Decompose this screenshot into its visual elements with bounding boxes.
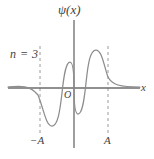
y-axis-label: ψ(x) — [58, 3, 81, 16]
x-axis-label: x — [141, 82, 146, 93]
left-turning-point-label: −A — [30, 135, 44, 146]
right-turning-point-label: A — [104, 135, 111, 146]
quantum-number-annotation: n = 3 — [10, 48, 39, 60]
figure-container: ψ(x) n = 3 x O −A A — [0, 0, 154, 159]
origin-label: O — [64, 90, 71, 100]
plot-canvas — [0, 0, 154, 159]
